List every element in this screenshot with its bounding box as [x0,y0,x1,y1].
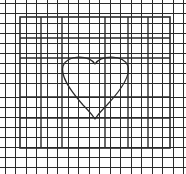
grid-heart-figure [0,0,186,174]
